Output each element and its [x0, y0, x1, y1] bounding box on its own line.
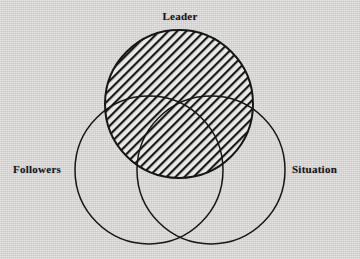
- venn-diagram-figure: Leader Followers Situation: [0, 0, 360, 259]
- leader-label: Leader: [0, 10, 360, 22]
- venn-diagram-canvas: [0, 0, 360, 259]
- situation-label: Situation: [292, 163, 337, 175]
- followers-label: Followers: [13, 163, 61, 175]
